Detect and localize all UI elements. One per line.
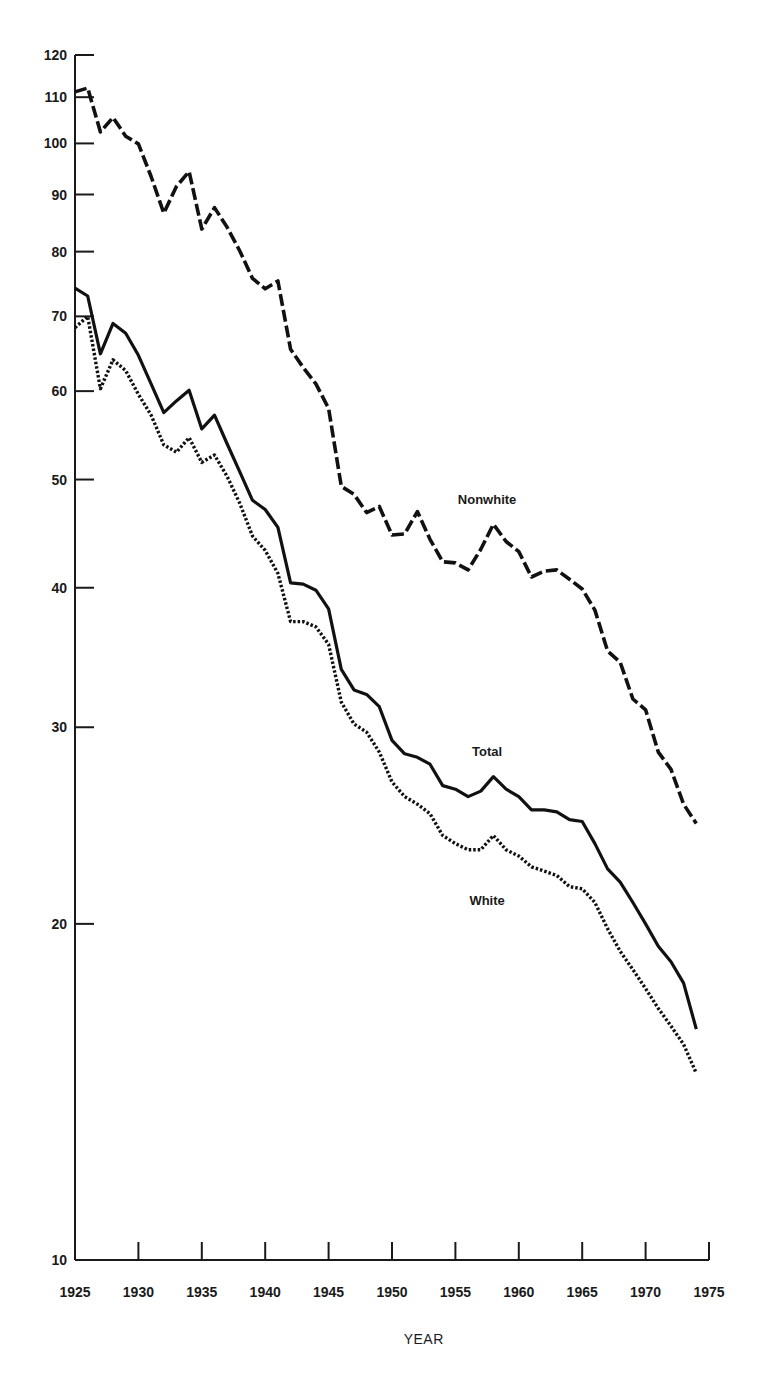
series-line-total bbox=[75, 288, 696, 1029]
y-tick-label: 80 bbox=[51, 244, 67, 260]
x-tick-label: 1945 bbox=[313, 1284, 344, 1300]
x-tick-label: 1960 bbox=[503, 1284, 534, 1300]
y-ticks: 102030405060708090100110120 bbox=[44, 47, 94, 1268]
series-line-nonwhite bbox=[75, 88, 696, 824]
series-label-nonwhite: Nonwhite bbox=[458, 492, 517, 507]
series-nonwhite bbox=[75, 88, 696, 824]
y-tick-label: 100 bbox=[44, 135, 68, 151]
x-axis-title: YEAR bbox=[404, 1331, 444, 1347]
y-tick-label: 60 bbox=[51, 383, 67, 399]
x-tick-label: 1970 bbox=[630, 1284, 661, 1300]
x-tick-label: 1925 bbox=[59, 1284, 90, 1300]
x-tick-label: 1965 bbox=[567, 1284, 598, 1300]
y-tick-label: 120 bbox=[44, 47, 68, 63]
y-tick-label: 90 bbox=[51, 187, 67, 203]
x-ticks: 1925193019351940194519501955196019651970… bbox=[59, 1242, 724, 1300]
y-tick-label: 10 bbox=[51, 1252, 67, 1268]
series-label-total: Total bbox=[472, 744, 502, 759]
series-line-white bbox=[75, 316, 696, 1073]
y-tick-label: 110 bbox=[44, 89, 67, 105]
x-tick-label: 1930 bbox=[123, 1284, 154, 1300]
y-tick-label: 40 bbox=[51, 580, 67, 596]
series-layer bbox=[75, 88, 696, 1073]
series-white bbox=[75, 316, 696, 1073]
x-tick-label: 1940 bbox=[250, 1284, 281, 1300]
y-tick-label: 20 bbox=[51, 916, 67, 932]
x-tick-label: 1935 bbox=[186, 1284, 217, 1300]
y-tick-label: 70 bbox=[51, 308, 67, 324]
x-tick-label: 1955 bbox=[440, 1284, 471, 1300]
series-label-white: White bbox=[469, 893, 504, 908]
mortality-line-chart: 102030405060708090100110120 192519301935… bbox=[0, 0, 762, 1377]
series-total bbox=[75, 288, 696, 1029]
y-tick-label: 30 bbox=[51, 719, 67, 735]
y-tick-label: 50 bbox=[51, 472, 67, 488]
annotations: NonwhiteTotalWhite bbox=[458, 492, 517, 907]
x-tick-label: 1975 bbox=[693, 1284, 724, 1300]
x-tick-label: 1950 bbox=[376, 1284, 407, 1300]
